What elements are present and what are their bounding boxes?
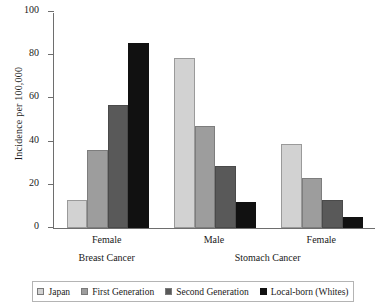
y-axis-tick-label: 40 — [5, 134, 39, 145]
legend-label: Japan — [48, 287, 70, 297]
bar[interactable] — [87, 150, 108, 228]
legend-label: Local-born (Whites) — [271, 287, 349, 297]
legend-item-japan[interactable]: Japan — [37, 287, 70, 297]
y-axis-tick: 80 — [48, 54, 54, 55]
legend-item-second-generation[interactable]: Second Generation — [165, 287, 249, 297]
x-axis-category-label: Male — [164, 234, 264, 245]
legend-swatch-icon — [260, 288, 267, 295]
y-axis-tick: 20 — [48, 184, 54, 185]
x-axis-supercategory-label: Breast Cancer — [47, 252, 167, 263]
legend-item-first-generation[interactable]: First Generation — [81, 287, 154, 297]
legend-swatch-icon — [37, 288, 44, 295]
chart-legend: Japan First Generation Second Generation… — [32, 281, 354, 302]
bar[interactable] — [281, 144, 302, 228]
bar[interactable] — [322, 200, 343, 228]
x-axis-category-label: Female — [57, 234, 157, 245]
y-axis-tick-label: 100 — [5, 4, 39, 15]
bar[interactable] — [195, 126, 216, 228]
y-axis-tick: 0 — [48, 227, 54, 228]
bar[interactable] — [236, 202, 257, 228]
legend-swatch-icon — [165, 288, 172, 295]
y-axis-tick-label: 0 — [5, 220, 39, 231]
legend-item-local-born-whites[interactable]: Local-born (Whites) — [260, 287, 349, 297]
legend-label: Second Generation — [176, 287, 249, 297]
legend-label: First Generation — [92, 287, 154, 297]
bar[interactable] — [128, 43, 149, 228]
y-axis-tick-label: 80 — [5, 47, 39, 58]
bar-chart: Incidence per 100,000 020406080100 Femal… — [0, 0, 385, 307]
bar-group — [174, 13, 256, 228]
bar-group — [67, 13, 149, 228]
legend-swatch-icon — [81, 288, 88, 295]
bar[interactable] — [174, 58, 195, 228]
bar[interactable] — [343, 217, 364, 228]
bar-group — [281, 13, 363, 228]
y-axis-tick-label: 60 — [5, 90, 39, 101]
y-axis-tick: 60 — [48, 97, 54, 98]
bar[interactable] — [215, 166, 236, 228]
plot-area: 020406080100 — [53, 13, 375, 229]
x-axis-category-label: Female — [271, 234, 371, 245]
bar[interactable] — [67, 200, 88, 228]
y-axis-tick: 100 — [48, 11, 54, 12]
bar[interactable] — [302, 178, 323, 228]
bar[interactable] — [108, 105, 129, 228]
y-axis-tick-label: 20 — [5, 177, 39, 188]
x-axis-supercategory-label: Stomach Cancer — [208, 252, 328, 263]
y-axis-tick: 40 — [48, 141, 54, 142]
